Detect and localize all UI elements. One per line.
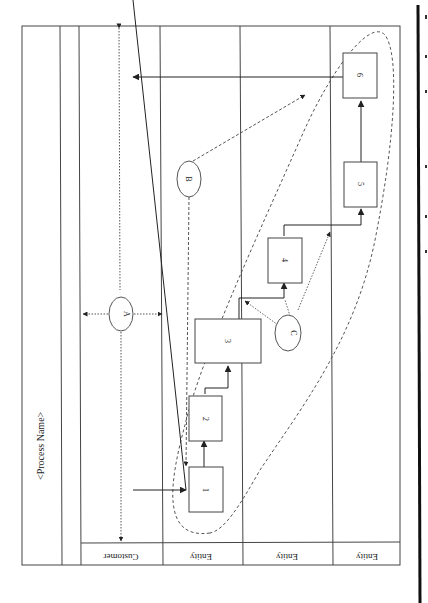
- step-1-label: 1: [201, 488, 210, 492]
- step-5-label: 5: [356, 182, 365, 186]
- flow-lines: [133, 0, 361, 490]
- gap-divider: [79, 26, 81, 565]
- lane-label-entity-2: Entity: [276, 552, 298, 562]
- step-4: 4: [268, 238, 302, 283]
- step-3-label: 3: [223, 339, 232, 343]
- lane-label-customer: Customer: [103, 552, 138, 562]
- lane-divider-entity-1: [240, 26, 243, 565]
- step-6: 6: [343, 53, 377, 98]
- process-title: <Process Name>: [35, 411, 46, 480]
- callout-a-span: [83, 28, 162, 541]
- callout-c-label: C: [289, 330, 298, 335]
- page-edge: [418, 5, 420, 603]
- title-divider: [60, 26, 62, 565]
- swimlane-diagram: <Process Name> Customer Entity Entity En…: [0, 0, 428, 603]
- right-margin-marks: [425, 15, 427, 253]
- step-6-label: 6: [355, 73, 364, 77]
- step-2-label: 2: [201, 417, 210, 421]
- step-2: 2: [189, 396, 222, 441]
- lane-header-divider: [81, 542, 400, 543]
- callout-a-label: A: [122, 311, 131, 317]
- callout-b-label: B: [184, 176, 193, 181]
- lane-divider-entity-2: [330, 26, 333, 565]
- step-3: 3: [195, 319, 261, 363]
- step-4-label: 4: [280, 258, 289, 262]
- step-1: 1: [189, 467, 223, 512]
- lane-label-entity-3: Entity: [356, 552, 378, 562]
- step-5: 5: [344, 162, 377, 207]
- lane-label-entity-1: Entity: [190, 552, 212, 562]
- lane-divider-customer: [160, 26, 163, 565]
